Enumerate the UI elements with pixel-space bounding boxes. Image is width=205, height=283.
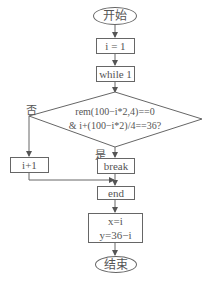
break-box: break xyxy=(97,158,135,174)
end-loop-box: end xyxy=(97,186,135,200)
init-box: i = 1 xyxy=(96,38,135,54)
result-line-2: y=36−i xyxy=(100,228,132,242)
while-box: while 1 xyxy=(96,66,135,82)
no-label: 否 xyxy=(26,101,37,117)
condition-line-2: & i+(100−i*2)/4==36? xyxy=(55,119,175,133)
result-box: x=i y=36−i xyxy=(88,213,143,243)
result-line-1: x=i xyxy=(108,214,123,228)
finish-terminal: 结束 xyxy=(95,256,137,273)
increment-box: i+1 xyxy=(10,157,49,173)
condition-line-1: rem(100−i*2,4)==0 xyxy=(55,105,175,119)
decision-text: rem(100−i*2,4)==0 & i+(100−i*2)/4==36? xyxy=(55,105,175,133)
start-terminal: 开始 xyxy=(93,7,137,25)
